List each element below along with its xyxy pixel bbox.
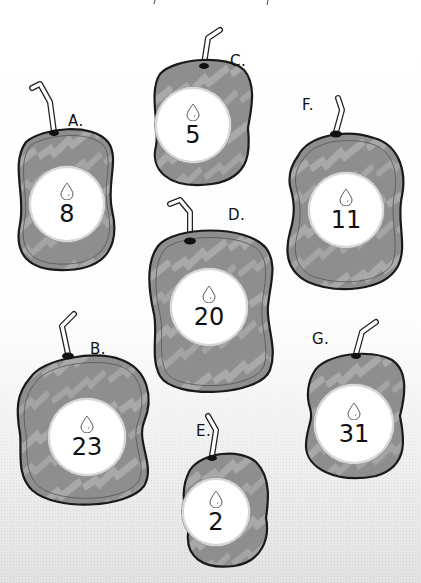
bag-a: A. 8 (12, 84, 124, 274)
bag-g-badge: 31 (314, 384, 394, 464)
bag-e-label: E. (196, 422, 211, 440)
bag-c: C. 5 (148, 22, 263, 194)
bag-d: D. 20 (146, 196, 280, 402)
bag-e-badge: 2 (182, 478, 250, 546)
bag-a-value: 8 (59, 202, 74, 226)
bag-g: G. 31 (300, 312, 416, 488)
water-drop-icon (186, 103, 200, 121)
bag-f-label: F. (302, 96, 314, 114)
water-drop-icon (209, 490, 223, 508)
bag-f: F. 11 (284, 96, 414, 296)
bag-g-value: 31 (339, 422, 370, 446)
bag-c-badge: 5 (155, 87, 231, 163)
bag-c-value: 5 (185, 123, 200, 147)
bag-f-badge: 11 (308, 172, 384, 248)
water-drop-icon (60, 182, 74, 200)
water-drop-icon (80, 415, 94, 433)
top-edge-marks (0, 0, 421, 10)
water-drop-icon (347, 402, 361, 420)
bag-d-label: D. (228, 206, 245, 224)
water-drop-icon (202, 285, 216, 303)
bag-b-label: B. (90, 340, 106, 358)
bag-e: E. 2 (176, 408, 276, 574)
bag-c-label: C. (230, 52, 246, 70)
bag-b-value: 23 (72, 435, 103, 459)
bag-d-badge: 20 (170, 268, 248, 346)
bag-a-label: A. (68, 112, 84, 130)
bag-g-label: G. (312, 330, 329, 348)
bag-a-badge: 8 (29, 166, 105, 242)
water-drop-icon (339, 188, 353, 206)
bag-b-badge: 23 (48, 398, 126, 476)
bag-f-value: 11 (331, 208, 362, 232)
bag-e-value: 2 (208, 510, 223, 534)
bag-b: B. 23 (16, 302, 156, 512)
bag-d-value: 20 (194, 305, 225, 329)
